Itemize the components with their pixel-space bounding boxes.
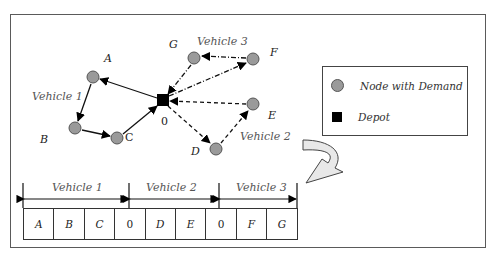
node-c (111, 132, 123, 144)
node-d (210, 143, 222, 155)
curved-arrow-icon (303, 140, 343, 183)
cell: D (145, 209, 175, 240)
segment-label-vehicle-3: Vehicle 3 (236, 181, 287, 194)
node-label-f: F (270, 46, 278, 59)
cell: 0 (115, 209, 145, 240)
node-label-e: E (268, 109, 276, 122)
vehicle-3-label: Vehicle 3 (197, 35, 248, 48)
demand-node-icon (331, 79, 344, 92)
vehicle-1-route (78, 79, 157, 136)
node-f (247, 53, 259, 65)
node-a (87, 71, 99, 83)
segment-label-vehicle-2: Vehicle 2 (146, 181, 197, 194)
cell: C (84, 209, 114, 240)
node-label-c: C (125, 131, 133, 144)
vehicle-1-label: Vehicle 1 (32, 90, 83, 103)
node-g (188, 52, 200, 64)
node-label-g: G (169, 38, 178, 51)
node-label-b: B (40, 133, 48, 146)
cell: 0 (206, 209, 236, 240)
vehicle-2-label: Vehicle 2 (240, 130, 291, 143)
route-encoding-table: A B C 0 D E 0 F G (23, 208, 298, 240)
cell: E (175, 209, 205, 240)
cell: G (267, 209, 297, 240)
segment-label-vehicle-1: Vehicle 1 (52, 181, 103, 194)
legend-demand-label: Node with Demand (360, 80, 463, 92)
node-label-d: D (191, 145, 200, 158)
depot-node (157, 94, 169, 106)
depot-label: 0 (161, 115, 168, 128)
vehicle-2-route (168, 101, 248, 143)
table-row: A B C 0 D E 0 F G (24, 209, 298, 240)
node-label-a: A (104, 52, 112, 65)
legend-depot-label: Depot (358, 111, 390, 123)
node-e (247, 98, 259, 110)
cell: A (24, 209, 54, 240)
cell: F (236, 209, 266, 240)
cell: B (54, 209, 84, 240)
vehicle-3-route (168, 56, 246, 96)
legend: Node with Demand Depot (322, 66, 468, 136)
depot-icon (332, 112, 342, 122)
node-b (69, 122, 81, 134)
